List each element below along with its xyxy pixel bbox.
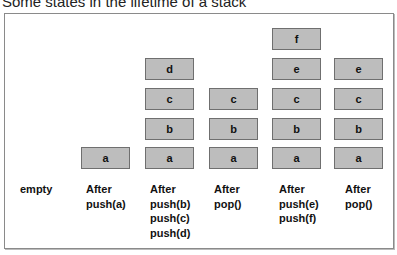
state-label-push-ef: After push(e) push(f) [279,182,319,226]
label-line: After [345,182,372,197]
label-line: push(b) [150,197,190,212]
state-label-push-bcd: After push(b) push(c) push(d) [150,182,190,240]
stack-item: b [209,118,258,140]
state-label-empty: empty [20,182,52,197]
label-line: After [150,182,190,197]
stack-item: c [145,88,194,110]
stack-item: a [272,147,321,169]
stack-item: a [145,147,194,169]
diagram-title: Some states in the lifetime of a stack [2,0,246,10]
stack-item: b [272,118,321,140]
stack-item: b [334,118,383,140]
stack-item: c [334,88,383,110]
label-line: After [214,182,241,197]
stack-item: c [209,88,258,110]
stack-item: b [145,118,194,140]
state-label-pop-2: After pop() [345,182,372,211]
state-label-pop-1: After pop() [214,182,241,211]
stack-item: c [272,88,321,110]
label-line: push(e) [279,197,319,212]
stack-item: a [81,147,130,169]
stack-item: a [209,147,258,169]
label-line: empty [20,182,52,197]
label-line: push(d) [150,226,190,241]
stack-item: a [334,147,383,169]
label-line: After [279,182,319,197]
label-line: push(c) [150,211,190,226]
label-line: pop() [214,197,241,212]
label-line: push(f) [279,211,319,226]
stack-item: d [145,58,194,80]
stack-item: f [272,28,321,50]
label-line: pop() [345,197,372,212]
stack-item: e [272,58,321,80]
label-line: After [86,182,126,197]
stack-item: e [334,58,383,80]
label-line: push(a) [86,197,126,212]
state-label-push-a: After push(a) [86,182,126,211]
